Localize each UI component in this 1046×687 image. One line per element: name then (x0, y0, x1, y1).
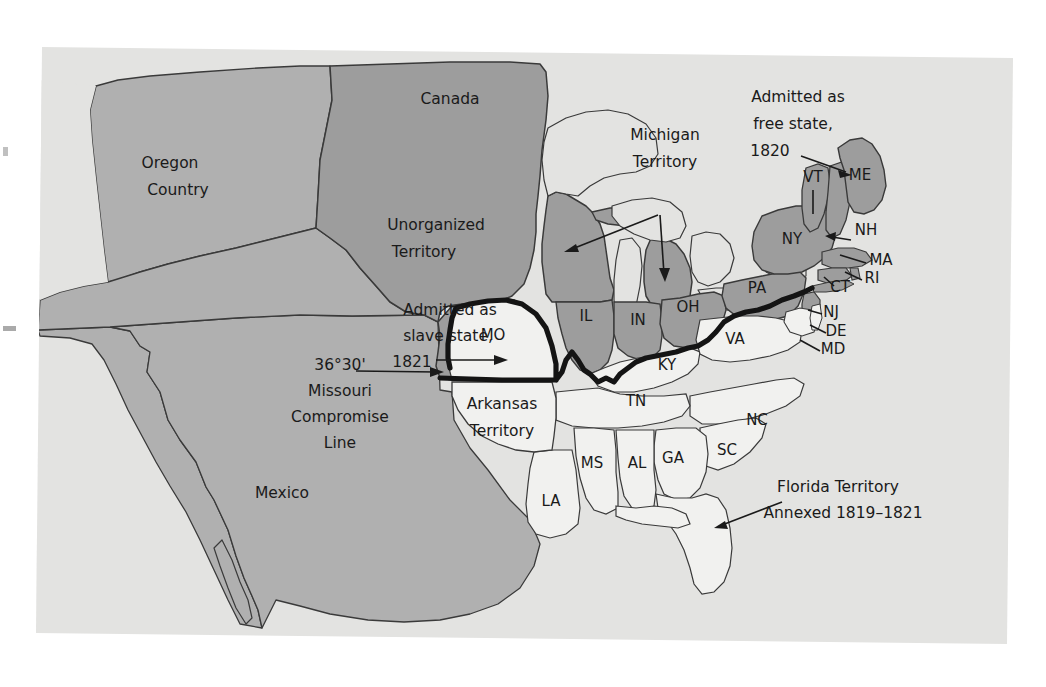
state-label-pa: PA (748, 279, 767, 297)
label-arkansas-territory-line2: Territory (469, 422, 534, 440)
figure-canvas: Canada Mexico Oregon Country Unorganized… (0, 0, 1046, 687)
label-oregon-country-line1: Oregon (142, 154, 199, 172)
annotation-compromise-lat: 36°30' (314, 356, 365, 374)
state-label-tn: TN (625, 392, 646, 410)
map-panel: Canada Mexico Oregon Country Unorganized… (0, 0, 1046, 687)
label-michigan-territory-line2: Territory (632, 153, 697, 171)
state-label-nh: NH (855, 221, 878, 239)
state-label-md: MD (821, 340, 846, 358)
state-label-la: LA (542, 492, 562, 510)
state-label-me: ME (849, 166, 871, 184)
state-label-in: IN (630, 311, 646, 329)
state-label-nj: NJ (823, 303, 839, 321)
label-unorganized-line2: Territory (391, 243, 456, 261)
annotation-florida-line2: Annexed 1819–1821 (763, 504, 922, 522)
state-label-mo: MO (481, 326, 506, 344)
annotation-florida-line1: Florida Territory (777, 478, 899, 496)
state-label-ct: CT (830, 278, 850, 296)
state-label-ky: KY (658, 356, 677, 374)
annotation-free-state-line2: free state, (753, 115, 833, 133)
annotation-slave-state-line1: Admitted as (403, 301, 497, 319)
state-ma (822, 248, 872, 268)
annotation-compromise-line2: Compromise (291, 408, 389, 426)
state-label-de: DE (825, 322, 846, 340)
annotation-free-state-year: 1820 (750, 142, 789, 160)
annotation-free-state-line1: Admitted as (751, 88, 845, 106)
annotation-compromise-line3: Line (324, 434, 356, 452)
state-label-ga: GA (662, 449, 685, 467)
state-label-ny: NY (782, 230, 803, 248)
label-mexico: Mexico (255, 484, 309, 502)
state-label-vt: VT (803, 168, 823, 186)
state-label-va: VA (725, 330, 745, 348)
state-label-ms: MS (581, 454, 603, 472)
label-michigan-territory-line1: Michigan (630, 126, 700, 144)
state-label-al: AL (628, 454, 647, 472)
label-oregon-country-line2: Country (147, 181, 209, 199)
state-label-nc: NC (746, 411, 768, 429)
state-label-ma: MA (869, 251, 893, 269)
annotation-compromise-line1: Missouri (308, 382, 372, 400)
state-label-oh: OH (676, 298, 699, 316)
label-canada: Canada (421, 90, 480, 108)
label-arkansas-territory-line1: Arkansas (467, 395, 538, 413)
annotation-slave-state-year: 1821 (392, 353, 431, 371)
annotation-slave-state-line2: slave state, (403, 327, 493, 345)
state-label-sc: SC (717, 441, 737, 459)
label-unorganized-line1: Unorganized (387, 216, 485, 234)
state-label-ri: RI (865, 269, 880, 287)
state-label-il: IL (580, 307, 593, 325)
